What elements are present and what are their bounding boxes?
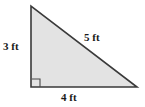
label-horizontal-leg: 4 ft (61, 92, 77, 103)
label-hypotenuse: 5 ft (84, 32, 100, 43)
right-triangle-figure: 3 ft 5 ft 4 ft (0, 0, 145, 107)
triangle-shape (31, 6, 137, 87)
label-vertical-leg: 3 ft (3, 41, 19, 52)
